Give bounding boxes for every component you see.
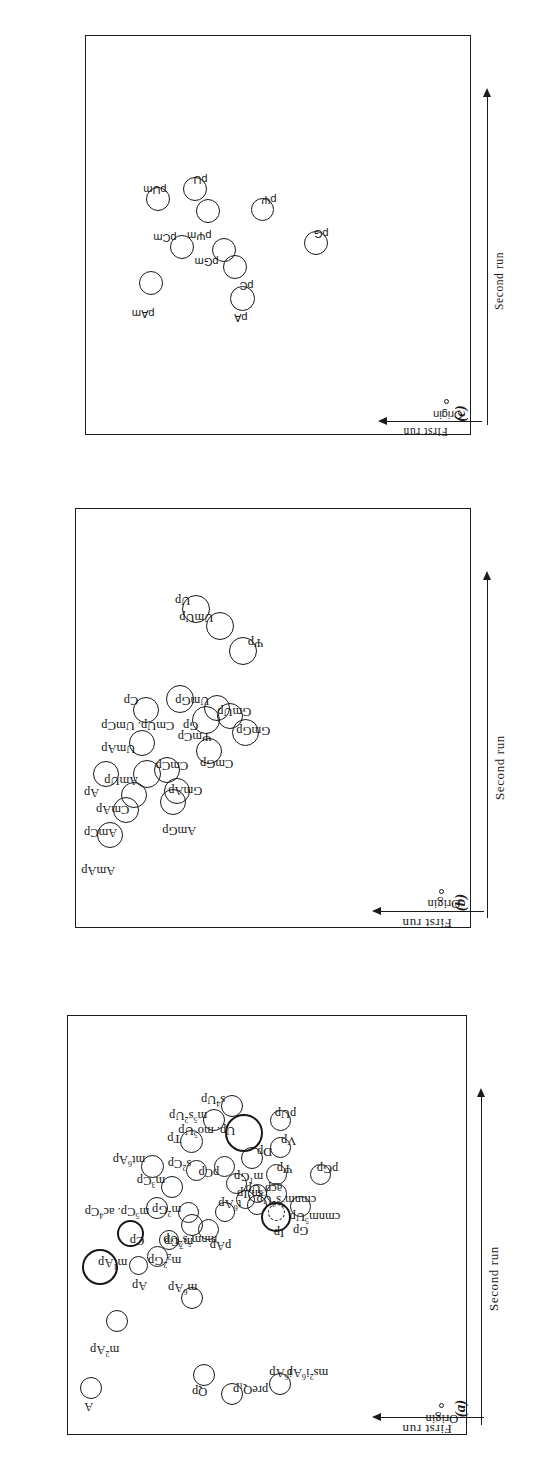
spot-m1Ap (128, 1256, 147, 1275)
spot-label-Up-mo5Up: Up. mo5Up (177, 1124, 234, 1137)
spot-label-CmGp: CmGp (199, 758, 232, 771)
spot-label-pCm: pCm (153, 232, 176, 243)
spot-label-Ap-a: Ap (132, 1279, 147, 1292)
spot-A-a (79, 1377, 101, 1399)
spot-label-pG: pG (313, 228, 328, 239)
spot-label-UmAp: UmAp (100, 743, 134, 756)
spot-label-m1Ap: m1Ap (98, 1256, 127, 1269)
spot-label-pC: pC (239, 279, 253, 290)
panel-label-c: (c) (452, 405, 469, 422)
spot-label-Ap-b: Ap (84, 787, 99, 800)
axis-label-second-run-c: Second run (493, 252, 505, 310)
spot-label-Cp-a: Cp (129, 1234, 144, 1247)
panel-b-rotation-wrapper: Origin AmAp AmCp Ap CmAp AmUp UmAp AmGp … (67, 505, 487, 925)
panel-a-plot-frame: Origin A m2Ap i6Ap ms2i6Ap m6Ap Ap m1Ap … (67, 1015, 467, 1435)
panel-c: Origin pAm pCm pUm pA pC pGm pΨm pU pΨ p… (0, 0, 553, 470)
spot-label-AmCp: AmCp (83, 827, 116, 840)
axis-first-run-b: First run (372, 906, 502, 932)
spot-pPsiM (196, 199, 220, 223)
panel-a-rotation-wrapper: Origin A m2Ap i6Ap ms2i6Ap m6Ap Ap m1Ap … (67, 1012, 487, 1432)
panel-label-b: (b) (452, 894, 469, 912)
spot-label-GmGp: GmGp (236, 724, 270, 737)
origin-marker-c (443, 399, 448, 404)
spot-m2Ap (105, 1310, 127, 1332)
spot-label-m1Gp: m1Gp (233, 1170, 262, 1183)
axis-label-first-run-a: First run (402, 1421, 452, 1437)
spot-label-pA: pA (234, 311, 247, 322)
spot-label-cmnm5Up: cmnm5Up (289, 1210, 340, 1223)
panel-b-plot-frame: Origin AmAp AmCp Ap CmAp AmUp UmAp AmGp … (75, 508, 471, 928)
axis-label-second-run-b: Second run (492, 735, 508, 800)
spot-label-ms2i6Ap: ms2i6Ap (286, 1367, 328, 1380)
spot-label-GmUp: GmUp (216, 705, 250, 718)
spot-label-m2Ap: m2Ap (90, 1344, 119, 1357)
panel-c-rotation-wrapper: Origin pAm pCm pUm pA pC pGm pΨm pU pΨ p… (77, 35, 477, 435)
spot-Gp-a-inner (267, 1203, 284, 1220)
axis-label-first-run-c: First run (403, 426, 448, 438)
spot-label-AmAp: AmAp (81, 864, 115, 877)
spot-label-AmGp: AmGp (161, 825, 195, 838)
spot-label-CmAp: CmAp (95, 804, 128, 817)
axis-label-second-run-a: Second run (486, 1246, 502, 1311)
spot-label-GmAp: GmAp (167, 785, 201, 798)
spot-label-Gp-a: Gp (293, 1225, 308, 1238)
panel-b: Origin AmAp AmCp Ap CmAp AmUp UmAp AmGp … (0, 470, 553, 960)
spot-label-CmUp-UmCp: CmUp. UmCp (101, 720, 174, 733)
spot-label-pGp: pGp (316, 1162, 338, 1175)
spot-label-pAm: pAm (132, 307, 155, 318)
spot-label-pUp: pUp (275, 1107, 297, 1120)
spot-label-Cp-b: Cp (124, 695, 139, 708)
origin-marker-b (439, 889, 444, 894)
spot-label-Up-b: Up (174, 595, 189, 608)
spot-label-m5s2Up: m5s2Up (168, 1110, 206, 1123)
spot-label-UmGp: UmGp (175, 695, 209, 708)
spot-label-m6Ap: m6Ap (167, 1281, 196, 1294)
axis-second-run-a: Second run (475, 1015, 505, 1435)
spot-label-pUm: pUm (143, 184, 166, 195)
spot-label-Vp: Vp (281, 1135, 296, 1148)
axis-first-run-a: First run (372, 1412, 502, 1438)
spot-label-A-a: A (84, 1400, 93, 1413)
spot-label-PsimCp: ΨmCp (178, 731, 212, 744)
spot-label-s4Up: s4Up (200, 1093, 224, 1106)
panel-a: Origin A m2Ap i6Ap ms2i6Ap m6Ap Ap m1Ap … (0, 960, 553, 1483)
axis-second-run-b: Second run (481, 508, 511, 928)
spot-label-pAp: pAp (209, 1239, 231, 1252)
spot-label-preQ1p: preQ1p (233, 1383, 268, 1396)
spot-label-pU: pU (193, 174, 207, 185)
spot-label-s2Cp: s2Cp (167, 1158, 191, 1171)
origin-marker-a (439, 1402, 444, 1407)
spot-label-pPsiM: pΨm (186, 230, 210, 241)
spot-label-pCp: pCp (198, 1166, 219, 1179)
spot-label-pPsi: pΨ (261, 194, 276, 205)
spot-label-m22Gp: m22Gp (147, 1254, 180, 1267)
spot-Qp (193, 1364, 215, 1386)
spot-label-CmCp: CmCp (155, 760, 188, 773)
figure-root: Origin pAm pCm pUm pA pC pGm pΨm pU pΨ p… (0, 0, 553, 1483)
spot-label-AmUp: AmUp (104, 774, 138, 787)
spot-label-UmUp: UmUp (179, 611, 213, 624)
spot-label-m5Cp-ac4Cp: m5Cp. ac4Cp (84, 1206, 149, 1219)
axis-first-run-c: First run (378, 416, 498, 442)
panel-c-plot-frame: Origin pAm pCm pUm pA pC pGm pΨm pU pΨ p… (85, 35, 471, 435)
spot-label-mt6Ap: mt6Ap (112, 1153, 145, 1166)
spot-pAm (138, 271, 162, 295)
panel-label-a: (a) (452, 1400, 469, 1418)
spot-label-m2Gp: m2Gp (152, 1204, 181, 1217)
spot-label-Qp: Qp (191, 1385, 206, 1398)
spot-label-pGm: pGm (194, 255, 218, 266)
spot-label-Psip-a: Ψp (277, 1162, 292, 1175)
spot-label-Psip-b: Ψp (247, 637, 262, 650)
spot-pAp (198, 1218, 219, 1239)
axis-second-run-c: Second run (481, 35, 511, 435)
axis-label-first-run-b: First run (402, 915, 452, 931)
